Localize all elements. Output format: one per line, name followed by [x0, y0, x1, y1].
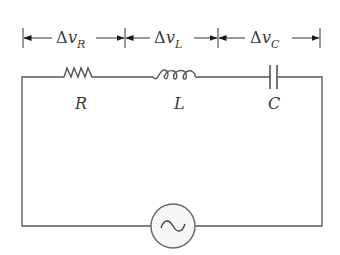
voltage-label-r: Δ v R [56, 28, 85, 51]
rlc-circuit-diagram: Δ v R Δ v L Δ v C R L C [0, 0, 340, 255]
svg-text:v: v [68, 28, 77, 47]
inductor-label: L [173, 94, 185, 113]
resistor-label: R [74, 94, 87, 113]
inductor-icon [153, 70, 198, 79]
wire-right [195, 77, 322, 226]
svg-text:R: R [76, 38, 85, 51]
svg-text:v: v [262, 28, 271, 47]
svg-text:v: v [166, 28, 175, 47]
voltage-label-c: Δ v C [250, 28, 280, 51]
svg-text:L: L [174, 38, 182, 51]
capacitor-label: C [268, 94, 280, 113]
svg-text:Δ: Δ [56, 28, 68, 47]
svg-text:C: C [271, 38, 280, 51]
capacitor-icon [270, 65, 277, 89]
resistor-icon [61, 68, 98, 77]
svg-text:Δ: Δ [154, 28, 166, 47]
svg-text:Δ: Δ [250, 28, 262, 47]
ac-source-icon [151, 204, 195, 248]
voltage-label-l: Δ v L [154, 28, 182, 51]
